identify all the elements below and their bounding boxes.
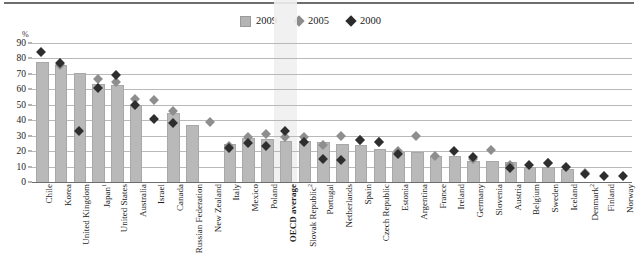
x-axis-label-chile: Chile bbox=[45, 184, 54, 204]
x-axis-label-russianfederation: Russian Federation bbox=[195, 184, 204, 253]
diamond-icon-2000 bbox=[345, 15, 356, 26]
x-axis-label-denmark: Denmark2 bbox=[589, 184, 600, 221]
x-axis-label-mexico: Mexico bbox=[251, 184, 260, 212]
chart-legend: 2009 2005 2000 bbox=[240, 14, 381, 28]
x-axis-label-ireland: Ireland bbox=[457, 184, 466, 209]
x-axis-label-spain: Spain bbox=[364, 184, 373, 205]
datapoint-2005-netherlands bbox=[336, 131, 346, 141]
x-axis-label-unitedstates: United States bbox=[120, 184, 129, 232]
x-axis-label-newzealand: New Zealand bbox=[214, 184, 223, 232]
datapoint-2000-czechrepublic bbox=[374, 137, 384, 147]
datapoint-2000-sweden bbox=[543, 159, 553, 169]
datapoint-2005-slovenia bbox=[486, 145, 496, 155]
x-axis-label-sweden: Sweden bbox=[551, 184, 560, 213]
chart-container: 2009 2005 2000 % 0102030405060708090 Chi… bbox=[0, 0, 638, 267]
x-axis-label-slovenia: Slovenia bbox=[495, 184, 504, 216]
x-axis-label-belgium: Belgium bbox=[532, 184, 541, 215]
x-axis-label-germany: Germany bbox=[476, 184, 485, 218]
datapoint-2000-ireland bbox=[449, 146, 459, 156]
datapoint-2000-poland bbox=[261, 142, 271, 152]
x-axis-label-unitedkingdom: United Kingdom bbox=[82, 184, 91, 245]
x-axis-label-norway: Norway bbox=[626, 184, 635, 213]
x-axis-label-portugal: Portugal bbox=[326, 184, 335, 215]
x-axis-label-korea: Korea bbox=[64, 184, 73, 206]
legend-item-2009: 2009 bbox=[240, 16, 277, 27]
datapoint-2005-argentina bbox=[411, 131, 421, 141]
datapoint-2000-portugal bbox=[318, 154, 328, 164]
datapoint-2000-mexico bbox=[243, 138, 253, 148]
x-axis-label-slovakrepublic: Slovak Republic2 bbox=[307, 184, 318, 247]
datapoint-2005-france bbox=[430, 151, 440, 161]
datapoint-2000-netherlands bbox=[336, 155, 346, 165]
datapoint-2000-unitedkingdom bbox=[74, 126, 84, 136]
points-layer bbox=[32, 43, 632, 182]
x-axis-label-canada: Canada bbox=[176, 184, 185, 211]
x-axis-label-netherlands: Netherlands bbox=[345, 184, 354, 227]
x-axis-label-italy: Italy bbox=[232, 184, 241, 201]
x-axis-label-oecdaverage: OECD average bbox=[289, 184, 298, 242]
x-axis-label-argentina: Argentina bbox=[420, 184, 429, 220]
datapoint-2000-iceland bbox=[561, 162, 571, 172]
datapoint-2000-norway bbox=[618, 171, 628, 181]
x-axis-label-poland: Poland bbox=[270, 184, 279, 209]
x-axis-label-austria: Austria bbox=[514, 184, 523, 211]
x-axis-label-czechrepublic: Czech Republic bbox=[382, 184, 391, 241]
x-axis-label-israel: Israel bbox=[157, 184, 166, 204]
datapoint-2005-israel bbox=[149, 95, 159, 105]
datapoint-2005-portugal bbox=[318, 140, 328, 150]
x-axis-label-australia: Australia bbox=[139, 184, 148, 217]
x-axis-label-iceland: Iceland bbox=[570, 184, 579, 210]
bar-swatch-icon bbox=[240, 16, 251, 27]
datapoint-2005-poland bbox=[261, 129, 271, 139]
datapoint-2000-canada bbox=[168, 118, 178, 128]
plot-area: 0102030405060708090 bbox=[32, 43, 632, 182]
page-top-rule bbox=[4, 2, 634, 4]
legend-label-2000: 2000 bbox=[360, 16, 381, 27]
legend-item-2000: 2000 bbox=[347, 16, 381, 27]
x-axis-label-japan: Japan1 bbox=[101, 184, 112, 208]
datapoint-2000-spain bbox=[355, 135, 365, 145]
x-axis-label-france: France bbox=[439, 184, 448, 209]
datapoint-2000-israel bbox=[149, 114, 159, 124]
x-axis-labels: ChileKoreaUnited KingdomJapan1United Sta… bbox=[32, 184, 632, 267]
datapoint-2005-newzealand bbox=[205, 117, 215, 127]
datapoint-2005-canada bbox=[168, 106, 178, 116]
datapoint-2000-belgium bbox=[524, 160, 534, 170]
legend-item-2005: 2005 bbox=[295, 16, 329, 27]
datapoint-2000-finland bbox=[599, 171, 609, 181]
legend-label-2005: 2005 bbox=[308, 16, 329, 27]
x-axis-label-finland: Finland bbox=[607, 184, 616, 212]
datapoint-2000-chile bbox=[36, 47, 46, 57]
x-axis-label-estonia: Estonia bbox=[401, 184, 410, 211]
datapoint-2000-japan bbox=[93, 83, 103, 93]
